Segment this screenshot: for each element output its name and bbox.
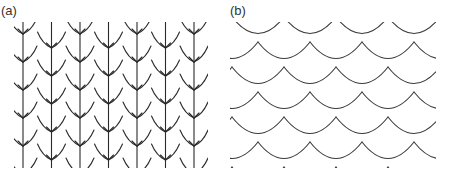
- fish-scale-pattern-illustration: [224, 0, 449, 177]
- panel-b: (b): [224, 0, 449, 177]
- leaf-scale-pattern-illustration: [0, 0, 224, 177]
- panel-a: (a): [0, 0, 224, 177]
